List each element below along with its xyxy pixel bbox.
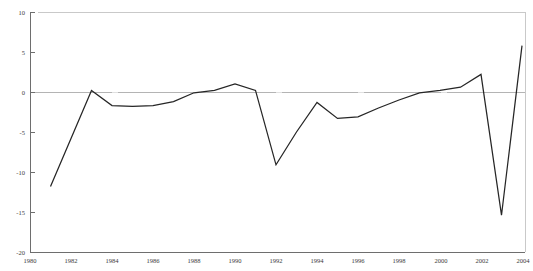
y-axis-ticks xyxy=(30,13,35,253)
y-axis-tick-labels: 10 5 0 -5 -10 -15 -20 xyxy=(16,9,25,256)
x-tick-label: 1994 xyxy=(311,257,325,264)
x-tick-label: 1988 xyxy=(188,257,201,264)
data-series-line xyxy=(51,46,523,216)
x-tick-label: 1982 xyxy=(65,257,78,264)
data-series-group xyxy=(51,46,523,216)
line-chart-plot: 10 5 0 -5 -10 -15 -20 1980 1982 1984 198… xyxy=(0,0,533,271)
x-tick-label: 1984 xyxy=(106,257,120,264)
x-tick-label: 1986 xyxy=(147,257,161,264)
y-tick-label: 0 xyxy=(22,89,25,96)
x-tick-label: 2004 xyxy=(517,257,531,264)
chart-container: 10 5 0 -5 -10 -15 -20 1980 1982 1984 198… xyxy=(0,0,533,271)
y-tick-label: -10 xyxy=(16,169,25,176)
x-tick-label: 1992 xyxy=(270,257,283,264)
x-tick-label: 1998 xyxy=(393,257,406,264)
y-tick-label: -15 xyxy=(16,209,25,216)
x-tick-label: 1980 xyxy=(24,257,37,264)
y-tick-label: -5 xyxy=(20,129,25,136)
y-tick-label: 10 xyxy=(19,9,26,16)
y-tick-label: -20 xyxy=(16,249,25,256)
x-tick-label: 1990 xyxy=(229,257,242,264)
x-axis-tick-labels: 1980 1982 1984 1986 1988 1990 1992 1994 … xyxy=(24,257,531,264)
plot-frame xyxy=(30,12,525,252)
y-tick-label: 5 xyxy=(22,49,25,56)
x-tick-label: 1996 xyxy=(352,257,366,264)
x-tick-label: 2002 xyxy=(476,257,489,264)
x-tick-label: 2000 xyxy=(435,257,448,264)
